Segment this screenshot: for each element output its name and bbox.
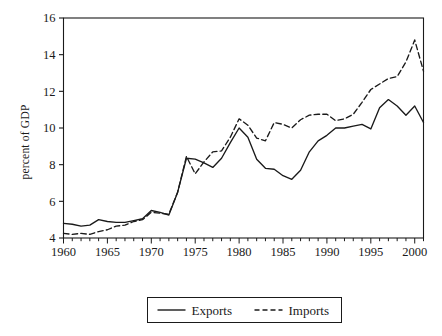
y-tick-label: 8 <box>49 158 55 172</box>
x-tick-label: 1995 <box>358 245 383 259</box>
x-tick-label: 1970 <box>139 245 164 259</box>
y-tick-label: 10 <box>43 121 56 135</box>
series-line-imports <box>64 40 424 234</box>
y-axis-label-container: percent of GDP <box>14 92 36 192</box>
data-series-group <box>64 40 424 234</box>
legend-label-imports: Imports <box>289 303 329 318</box>
chart-legend: ExportsImports <box>148 298 342 323</box>
y-tick-label: 12 <box>43 85 56 99</box>
x-tick-label: 1975 <box>183 245 208 259</box>
x-tick-label: 1965 <box>95 245 120 259</box>
line-chart-svg: 4681012141619601965197019751980198519901… <box>0 0 442 336</box>
x-tick-label: 2000 <box>402 245 427 259</box>
chart-figure: percent of GDP 4681012141619601965197019… <box>0 0 442 336</box>
y-tick-label: 16 <box>43 11 56 25</box>
y-axis-label: percent of GDP <box>19 105 31 180</box>
x-tick-label: 1985 <box>271 245 296 259</box>
x-tick-label: 1980 <box>227 245 252 259</box>
x-tick-label: 1990 <box>314 245 339 259</box>
y-tick-label: 4 <box>49 231 56 245</box>
x-tick-label: 1960 <box>51 245 76 259</box>
series-line-exports <box>64 100 424 227</box>
y-tick-label: 14 <box>43 48 56 62</box>
y-tick-label: 6 <box>49 195 55 209</box>
legend-label-exports: Exports <box>192 303 232 318</box>
